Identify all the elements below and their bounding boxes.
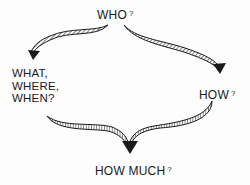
- arrow-who-to-what: [28, 25, 108, 60]
- node-what-where-when: WHAT, WHERE, WHEN?: [12, 67, 59, 105]
- node-how-much-text: HOW MUCH: [95, 164, 165, 178]
- node-who-text: WHO: [97, 8, 127, 22]
- node-when-line: WHEN?: [12, 92, 59, 105]
- node-how-much: HOW MUCH?: [95, 164, 172, 177]
- arrow-what-to-howmuch: [47, 116, 128, 143]
- arrow-how-to-howmuch: [130, 101, 212, 142]
- arrow-head-howmuch: [122, 141, 138, 154]
- node-how: HOW?: [199, 88, 236, 101]
- node-where-line: WHERE,: [12, 80, 59, 93]
- node-how-mark: ?: [231, 89, 236, 98]
- flow-diagram: WHO? WHAT, WHERE, WHEN? HOW? HOW MUCH?: [0, 0, 250, 185]
- node-how-much-mark: ?: [167, 165, 172, 174]
- arrow-who-to-how: [124, 25, 226, 74]
- node-how-text: HOW: [199, 88, 229, 102]
- node-what-line: WHAT,: [12, 67, 59, 80]
- node-who-mark: ?: [129, 9, 134, 18]
- node-who: WHO?: [97, 8, 134, 21]
